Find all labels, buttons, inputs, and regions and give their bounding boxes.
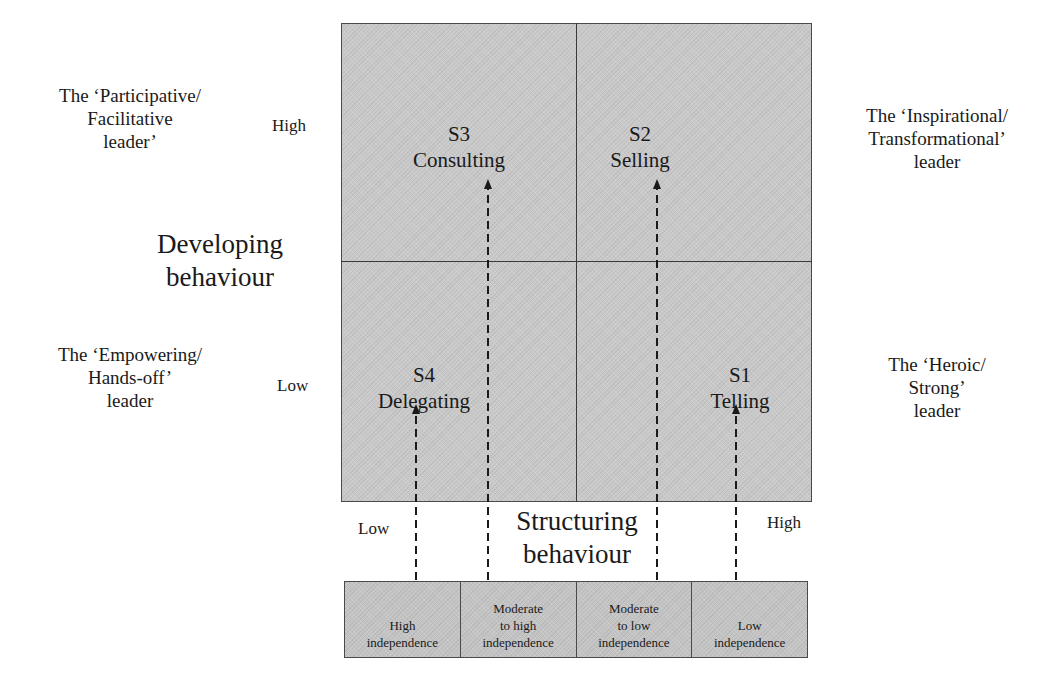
leader-empowering-label: The ‘Empowering/ Hands-off’ leader <box>20 343 240 412</box>
x-axis-title-line: behaviour <box>472 538 682 571</box>
leader-line: Transformational’ <box>817 127 1057 150</box>
y-axis-title-line: Developing <box>120 228 320 261</box>
quadrant-s3: S3 Consulting <box>379 121 539 173</box>
box-line: independence <box>482 634 553 651</box>
quadrant-s1-code: S1 <box>660 362 820 388</box>
independence-box-high: High independence <box>345 582 461 657</box>
grid-horizontal-divider <box>341 261 812 262</box>
y-axis-title: Developing behaviour <box>120 228 320 294</box>
grid-vertical-divider <box>576 23 577 502</box>
x-axis-title: Structuring behaviour <box>472 505 682 571</box>
box-line: Low <box>738 617 762 634</box>
leader-line: leader’ <box>20 130 240 153</box>
leader-line: leader <box>817 399 1057 422</box>
independence-scale: High independence Moderate to high indep… <box>344 581 808 658</box>
box-line: High <box>389 617 415 634</box>
independence-box-moderate-high: Moderate to high independence <box>461 582 577 657</box>
quadrant-s2-name: Selling <box>560 147 720 173</box>
leader-heroic-label: The ‘Heroic/ Strong’ leader <box>817 353 1057 422</box>
y-axis-low-label: Low <box>277 376 308 396</box>
leader-line: The ‘Heroic/ <box>817 353 1057 376</box>
independence-box-low: Low independence <box>692 582 807 657</box>
box-line: independence <box>598 634 669 651</box>
leader-line: leader <box>817 150 1057 173</box>
independence-box-moderate-low: Moderate to low independence <box>577 582 693 657</box>
box-line: Moderate <box>609 600 659 617</box>
quadrant-s3-code: S3 <box>379 121 539 147</box>
quadrant-s4-name: Delegating <box>344 388 504 414</box>
quadrant-s2-code: S2 <box>560 121 720 147</box>
leader-line: leader <box>20 389 240 412</box>
quadrant-s1: S1 Telling <box>660 362 820 414</box>
box-line: independence <box>714 634 785 651</box>
leader-inspirational-label: The ‘Inspirational/ Transformational’ le… <box>817 104 1057 173</box>
quadrant-s1-name: Telling <box>660 388 820 414</box>
quadrant-s2: S2 Selling <box>560 121 720 173</box>
quadrant-s4: S4 Delegating <box>344 362 504 414</box>
box-line: to low <box>617 617 650 634</box>
quadrant-s3-name: Consulting <box>379 147 539 173</box>
leader-line: Hands-off’ <box>20 366 240 389</box>
box-line: independence <box>367 634 438 651</box>
leader-line: Strong’ <box>817 376 1057 399</box>
leader-participative-label: The ‘Participative/ Facilitative leader’ <box>20 84 240 153</box>
leader-line: The ‘Empowering/ <box>20 343 240 366</box>
x-axis-high-label: High <box>767 513 801 533</box>
box-line: to high <box>500 617 536 634</box>
y-axis-title-line: behaviour <box>120 261 320 294</box>
leader-line: Facilitative <box>20 107 240 130</box>
box-line: Moderate <box>493 600 543 617</box>
leader-line: The ‘Inspirational/ <box>817 104 1057 127</box>
y-axis-high-label: High <box>272 116 306 136</box>
quadrant-s4-code: S4 <box>344 362 504 388</box>
x-axis-title-line: Structuring <box>472 505 682 538</box>
x-axis-low-label: Low <box>358 519 389 539</box>
leader-line: The ‘Participative/ <box>20 84 240 107</box>
